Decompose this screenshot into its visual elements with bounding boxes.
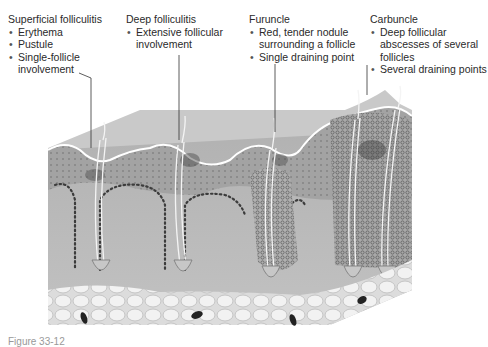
figure-caption: Figure 33-12 xyxy=(8,336,65,347)
